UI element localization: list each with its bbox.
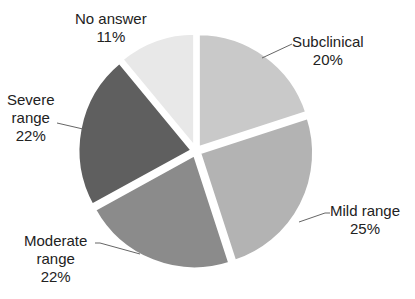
label-no-answer: No answer 11%	[75, 10, 147, 46]
leader-line-mild	[299, 213, 330, 222]
label-moderate-range: Moderate range 22%	[24, 232, 87, 286]
label-mild-range: Mild range 25%	[330, 202, 400, 238]
pie-slices	[78, 33, 313, 268]
label-subclinical: Subclinical 20%	[292, 33, 364, 69]
leader-line-subclinical	[262, 44, 292, 58]
label-severe-range: Severe range 22%	[7, 91, 55, 145]
leader-line-severe	[57, 123, 83, 129]
